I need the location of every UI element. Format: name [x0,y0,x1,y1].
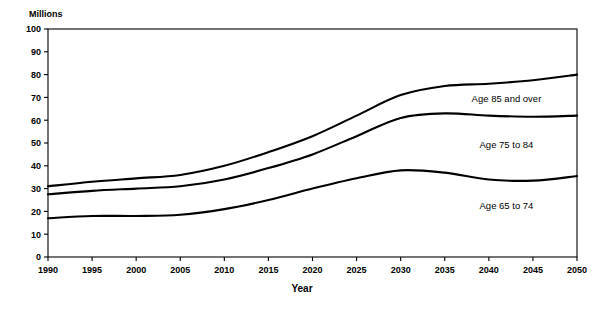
x-tick-label: 2045 [523,265,543,275]
x-tick-label: 2035 [435,265,455,275]
x-tick-label: 2005 [170,265,190,275]
y-tick-label: 90 [31,47,41,57]
x-tick-label: 2050 [567,265,587,275]
y-tick-label: 30 [31,184,41,194]
y-tick-label: 10 [31,230,41,240]
x-tick-label: 2010 [214,265,234,275]
y-axis-unit-label: Millions [29,9,63,19]
y-tick-label: 40 [31,161,41,171]
x-axis-title: Year [291,283,312,294]
series-label-1: Age 75 to 84 [480,139,534,150]
x-tick-label: 2020 [302,265,322,275]
y-tick-label: 20 [31,207,41,217]
x-tick-label: 2000 [126,265,146,275]
y-tick-label: 0 [36,252,41,262]
y-tick-label: 100 [26,24,41,34]
x-tick-label: 2030 [391,265,411,275]
x-tick-label: 1995 [82,265,102,275]
chart-container: Millions 0102030405060708090100 19901995… [0,0,604,309]
x-tick-label: 2040 [479,265,499,275]
chart-background [0,0,604,309]
y-tick-label: 70 [31,93,41,103]
series-label-2: Age 85 and over [472,93,542,104]
series-label-0: Age 65 to 74 [480,200,534,211]
y-tick-label: 60 [31,116,41,126]
y-tick-label: 80 [31,70,41,80]
x-tick-label: 2025 [347,265,367,275]
x-tick-label: 2015 [258,265,278,275]
x-tick-label: 1990 [38,265,58,275]
population-projection-line-chart: Millions 0102030405060708090100 19901995… [0,0,604,309]
y-tick-label: 50 [31,138,41,148]
